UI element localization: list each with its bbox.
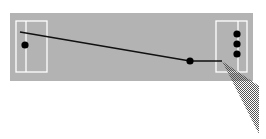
right-dot-1 [233, 30, 240, 37]
right-dot-2 [233, 40, 240, 47]
field-diagram [0, 0, 266, 139]
mid-dot [186, 57, 193, 64]
right-dot-3 [233, 50, 240, 57]
left-dot [21, 41, 28, 48]
